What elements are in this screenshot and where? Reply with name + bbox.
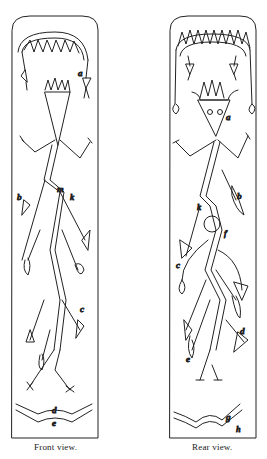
label-g-rear: g — [226, 412, 231, 422]
label-f-rear: f — [224, 228, 228, 238]
label-d-rear: d — [240, 326, 245, 336]
rear-view-caption: Rear view. — [192, 442, 232, 452]
label-a-front: a — [78, 68, 83, 78]
label-e-rear: e — [186, 354, 190, 364]
label-d-front: d — [52, 405, 57, 415]
label-m-front: m — [57, 184, 64, 194]
front-view-caption: Front view. — [34, 442, 77, 452]
label-b-front: b — [17, 192, 22, 202]
label-k-front: k — [70, 192, 75, 202]
rear-panel-outline — [170, 16, 256, 438]
label-a-rear: a — [226, 112, 231, 122]
rear-view-panel: a b k f c d e g h — [170, 16, 256, 438]
label-h-rear: h — [236, 424, 241, 434]
front-view-panel: a b m k c d e — [12, 16, 98, 438]
label-b-rear: b — [237, 191, 242, 201]
label-c-front: c — [80, 304, 84, 314]
label-e-front: e — [52, 418, 56, 428]
label-k-rear: k — [197, 202, 202, 212]
figure-drawing: a b m k c d e — [0, 0, 267, 459]
label-c-rear: c — [176, 260, 180, 270]
